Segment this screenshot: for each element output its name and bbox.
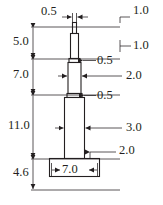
dim-left-7: 7.0 — [13, 68, 29, 81]
dim-right-3: 0.5 — [97, 54, 113, 67]
dim-right-4: 2.0 — [126, 69, 142, 82]
dim-left-46: 4.6 — [13, 166, 29, 179]
dim-right-7: 2.0 — [119, 144, 135, 157]
dim-right-5: 0.5 — [97, 89, 113, 102]
dim-right-1: 1.0 — [133, 4, 149, 17]
dim-left-5: 5.0 — [13, 35, 29, 48]
part-outline — [50, 23, 100, 177]
technical-drawing-canvas: 0.5 1.0 5.0 1.0 0.5 7.0 2.0 0.5 11.0 3.0… — [0, 0, 163, 205]
dim-top-width: 0.5 — [41, 5, 57, 18]
dim-left-11: 11.0 — [8, 119, 30, 132]
dim-right-2: 1.0 — [133, 39, 149, 52]
dim-right-6: 3.0 — [126, 121, 142, 134]
dim-base-width: 7.0 — [62, 163, 78, 176]
